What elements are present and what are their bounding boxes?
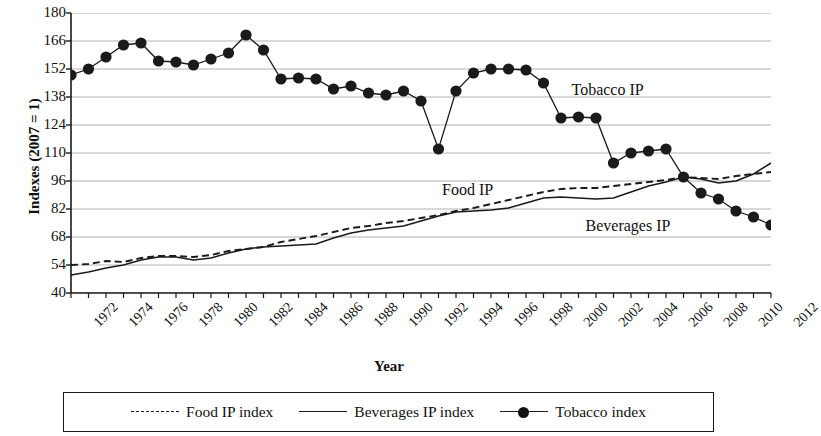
data-point-marker [71,69,77,80]
data-point-marker [713,193,724,204]
data-point-marker [100,51,111,62]
x-tick-label: 2010 [756,300,786,330]
x-tick-label: 1992 [441,300,471,330]
y-tick-label: 152 [24,61,66,76]
data-point-marker [153,55,164,66]
data-point-marker [485,63,496,74]
legend-marker-icon [518,407,529,418]
legend-label: Tobacco index [555,403,646,421]
y-tick-label: 110 [24,145,66,160]
chart-annotation-beverages-ip: Beverages IP [586,217,671,235]
data-point-marker [748,211,759,222]
data-point-marker [695,187,706,198]
chart-annotation-tobacco-ip: Tobacco IP [572,81,644,99]
data-point-marker [170,56,181,67]
plot-area [71,13,771,293]
x-tick-label: 1996 [511,300,541,330]
data-point-marker [468,67,479,78]
legend-item-tobacco-index[interactable]: Tobacco index [500,403,646,421]
y-tick-label: 124 [24,117,66,132]
data-point-marker [573,111,584,122]
x-tick-label: 1998 [546,300,576,330]
data-point-marker [503,63,514,74]
data-point-marker [328,83,339,94]
data-point-marker [345,80,356,91]
x-axis-title: Year [0,358,778,375]
x-tick-label: 2012 [791,300,821,330]
data-point-marker [520,64,531,75]
legend-item-beverages-ip-index[interactable]: Beverages IP index [299,403,474,421]
data-point-marker [240,29,251,40]
legend-swatch [131,406,179,418]
data-point-marker [258,44,269,55]
x-tick-label: 1976 [161,300,191,330]
x-tick-label: 1986 [336,300,366,330]
data-point-marker [450,85,461,96]
data-point-marker [135,37,146,48]
x-tick-label: 1980 [231,300,261,330]
data-point-marker [398,85,409,96]
data-point-marker [660,143,671,154]
legend-line-icon [131,411,179,412]
data-point-marker [415,95,426,106]
data-point-marker [538,77,549,88]
y-tick-label: 166 [24,33,66,48]
data-point-marker [433,143,444,154]
chart-annotation-food-ip: Food IP [442,181,493,199]
x-tick-label: 2006 [686,300,716,330]
legend-swatch [500,406,548,418]
x-tick-label: 2000 [581,300,611,330]
data-point-marker [205,53,216,64]
legend-label: Food IP index [186,403,273,421]
data-series-layer [71,29,771,275]
data-point-marker [555,112,566,123]
x-tick-label: 1990 [406,300,436,330]
data-point-marker [83,63,94,74]
x-tick-label: 2002 [616,300,646,330]
x-tick-label: 2004 [651,300,681,330]
legend-item-food-ip-index[interactable]: Food IP index [131,403,273,421]
data-point-marker [608,157,619,168]
x-tick-label: 1978 [196,300,226,330]
x-axis-tick-labels: 1972197419761978198019821984198619881990… [0,296,778,356]
data-point-marker [765,219,771,230]
data-point-marker [678,171,689,182]
y-axis-tick-labels: 1801661521381241109682685440 [18,0,66,310]
y-tick-label: 68 [24,229,66,244]
y-tick-label: 96 [24,173,66,188]
data-point-marker [188,59,199,70]
legend-swatch [299,406,347,418]
data-point-marker [363,87,374,98]
x-tick-label: 1994 [476,300,506,330]
y-tick-label: 54 [24,257,66,272]
x-tick-label: 1984 [301,300,331,330]
data-point-marker [590,112,601,123]
y-tick-label: 180 [24,5,66,20]
y-tick-label: 82 [24,201,66,216]
data-point-marker [625,147,636,158]
legend-label: Beverages IP index [354,403,474,421]
data-point-marker [118,39,129,50]
x-tick-label: 1972 [91,300,121,330]
plot-svg [71,13,771,293]
data-point-marker [275,73,286,84]
x-tick-label: 1974 [126,300,156,330]
data-point-marker [310,73,321,84]
y-tick-label: 138 [24,89,66,104]
data-point-marker [380,89,391,100]
x-tick-label: 1982 [266,300,296,330]
data-point-marker [643,145,654,156]
data-point-marker [223,47,234,58]
data-point-marker [730,205,741,216]
x-tick-label: 2008 [721,300,751,330]
data-point-marker [293,72,304,83]
chart-legend: Food IP indexBeverages IP indexTobacco i… [63,392,714,432]
legend-line-icon [299,411,347,412]
x-tick-label: 1988 [371,300,401,330]
